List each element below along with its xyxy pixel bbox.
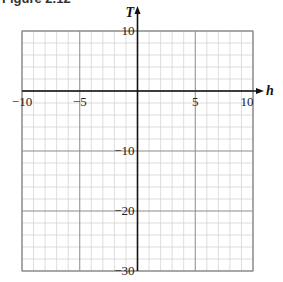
x-axis-arrow-icon: [256, 88, 264, 94]
y-tick-label: −30: [114, 263, 134, 278]
x-tick-label: −5: [73, 94, 87, 109]
y-tick-label: 10: [122, 23, 135, 38]
x-tick-label: 5: [192, 94, 199, 109]
y-axis-arrow-icon: [135, 6, 141, 14]
y-tick-label: −20: [114, 203, 134, 218]
x-tick-label: 10: [241, 94, 254, 109]
axes: [22, 6, 264, 271]
y-tick-label: −10: [114, 143, 134, 158]
y-axis-label: T: [126, 5, 136, 20]
x-axis-label: h: [266, 83, 274, 98]
coordinate-grid-chart: −10−551010−10−20−30 h T: [0, 0, 283, 282]
x-tick-label: −10: [12, 94, 32, 109]
